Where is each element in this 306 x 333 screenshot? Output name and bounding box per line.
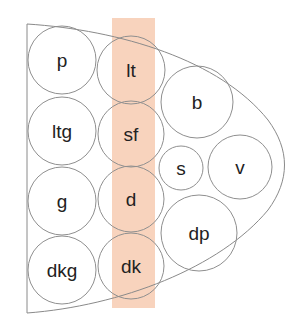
node-label: ltg (52, 121, 72, 142)
node-label: lt (126, 60, 136, 81)
node-dp: dp (161, 195, 237, 271)
node-label: dkg (47, 260, 78, 281)
node-label: g (57, 191, 68, 212)
node-label: dk (121, 256, 142, 277)
node-ltg: ltg (28, 97, 96, 165)
node-b: b (161, 66, 233, 138)
node-g: g (28, 167, 96, 235)
node-s: s (159, 146, 203, 190)
node-p: p (28, 26, 96, 94)
node-label: sf (124, 124, 140, 145)
node-label: p (57, 50, 68, 71)
node-label: b (192, 92, 203, 113)
node-dkg: dkg (28, 236, 96, 304)
node-label: d (126, 189, 137, 210)
node-v: v (208, 135, 272, 199)
node-label: dp (188, 223, 209, 244)
node-label: v (235, 157, 245, 178)
node-label: s (176, 158, 186, 179)
hue-circle-diagram: pltltgsfgddkgdkbsvdp (0, 0, 306, 333)
